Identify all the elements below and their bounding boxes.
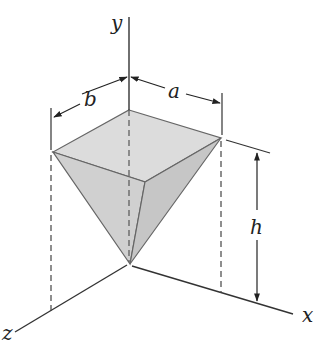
- pyramid-diagram: b a h y x z: [0, 0, 316, 355]
- a-dimension-line-right: [186, 94, 220, 103]
- a-label: a: [168, 79, 180, 103]
- x-axis: [132, 266, 293, 314]
- b-dimension-line-lower: [54, 104, 80, 117]
- b-label: b: [84, 87, 97, 111]
- x-axis-label: x: [302, 303, 313, 327]
- y-axis-label: y: [110, 11, 123, 35]
- a-dimension-line-left: [131, 77, 165, 88]
- z-axis: [15, 265, 127, 332]
- z-axis-label: z: [1, 321, 13, 345]
- pyramid: [53, 110, 221, 264]
- h-top-extension-line: [226, 140, 270, 153]
- h-label: h: [250, 215, 263, 239]
